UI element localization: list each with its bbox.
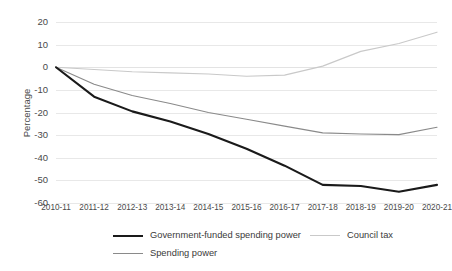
y-axis-tick-label: 10 (37, 40, 48, 50)
series-line-government-funded-spending-power (56, 67, 437, 191)
series-line-council-tax (56, 32, 437, 76)
y-axis-tick-label: -40 (34, 153, 48, 163)
y-axis-tick-label: -20 (34, 108, 48, 118)
x-axis-tick-label: 2018-19 (346, 204, 376, 212)
x-axis-tick-label: 2014-15 (193, 204, 223, 212)
plot-area (56, 22, 437, 203)
y-axis-tick-label: 0 (43, 63, 48, 73)
y-axis-tick-label: 20 (37, 17, 48, 27)
y-axis-tick-label: -30 (34, 130, 48, 140)
legend-swatch-line-icon (113, 235, 143, 237)
x-axis-tick-label: 2013-14 (155, 204, 185, 212)
x-axis-tick-label: 2015-16 (231, 204, 261, 212)
legend-item[interactable]: Council tax (310, 231, 393, 240)
legend-item-label: Government-funded spending power (150, 231, 301, 240)
x-axis-tick-label: 2019-20 (384, 204, 414, 212)
y-axis-ticks: 20100-10-20-30-40-50-60 (0, 22, 52, 203)
x-axis-tick-label: 2020-21 (422, 204, 452, 212)
legend-item-label: Spending power (150, 249, 217, 258)
x-axis-tick-label: 2016-17 (270, 204, 300, 212)
legend-item[interactable]: Spending power (113, 249, 217, 258)
legend-item-label: Council tax (347, 231, 393, 240)
legend-item[interactable]: Government-funded spending power (113, 231, 301, 240)
x-axis-tick-label: 2012-13 (117, 204, 147, 212)
y-axis-tick-label: -10 (34, 85, 48, 95)
chart-legend: Government-funded spending powerCouncil … (0, 228, 451, 271)
x-axis-tick-label: 2010-11 (41, 204, 70, 212)
x-axis-tick-label: 2017-18 (308, 204, 338, 212)
x-axis-ticks: 2010-112011-122012-132013-142014-152015-… (56, 204, 437, 218)
legend-swatch-line-icon (310, 235, 340, 236)
x-axis-tick-label: 2011-12 (79, 204, 108, 212)
series-lines (56, 22, 437, 203)
legend-swatch-line-icon (113, 253, 143, 254)
y-axis-tick-label: -50 (34, 176, 48, 186)
series-line-spending-power (56, 67, 437, 134)
